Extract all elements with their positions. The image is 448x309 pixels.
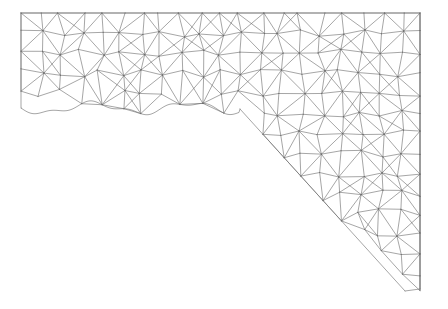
- mesh-figure: [0, 0, 448, 309]
- triangular-mesh-canvas: [0, 0, 448, 309]
